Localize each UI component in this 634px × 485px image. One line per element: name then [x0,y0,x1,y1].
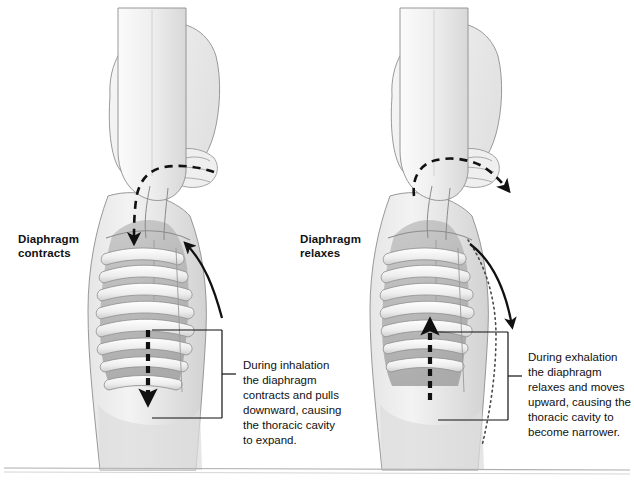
panel-label-inhalation: Diaphragm contracts [18,232,79,261]
right-human-figure [370,8,502,470]
left-human-figure [88,8,220,470]
caption-exhalation: During exhalation the diaphragm relaxes … [528,350,632,440]
breathing-mechanics-figure: Diaphragm contracts Diaphragm relaxes Du… [0,0,634,485]
caption-inhalation: During inhalation the diaphragm contract… [243,358,351,448]
bottom-divider [4,468,630,474]
panel-label-exhalation: Diaphragm relaxes [300,232,361,261]
